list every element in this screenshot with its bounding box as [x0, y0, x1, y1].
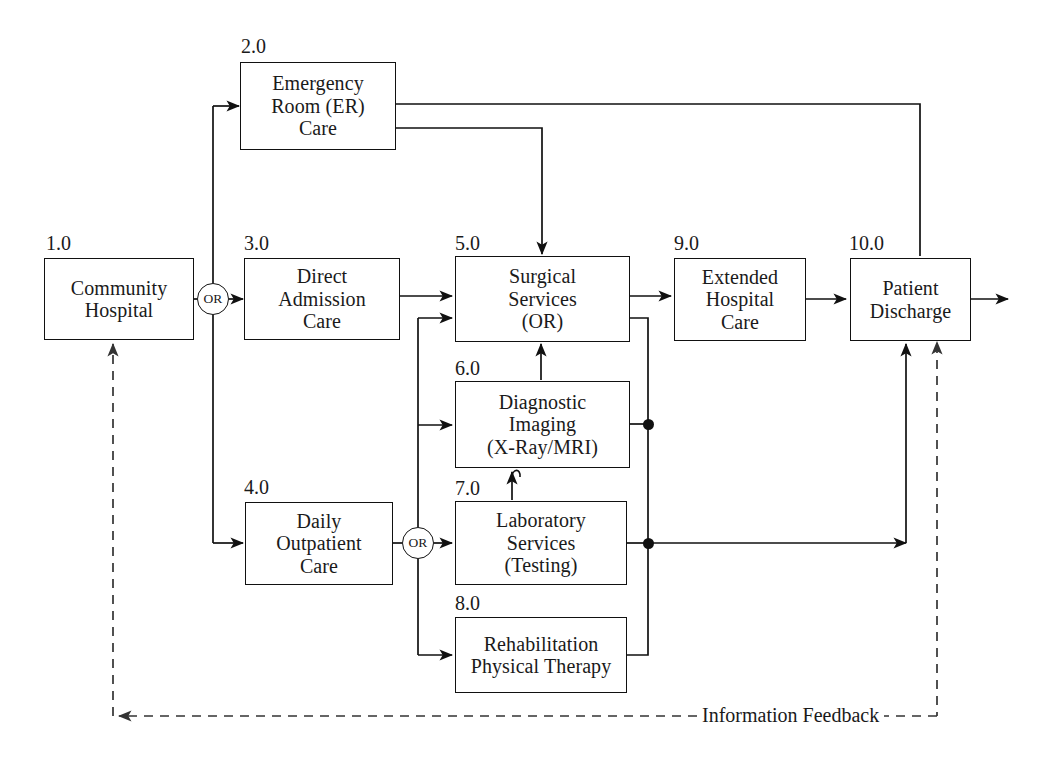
- process-id-10: 10.0: [849, 233, 884, 253]
- process-label-line: Community: [71, 277, 167, 299]
- process-label-line: Direct: [297, 265, 348, 287]
- junction-dot-imaging: [643, 419, 654, 430]
- process-id-3: 3.0: [244, 233, 269, 253]
- process-label-line: Room (ER): [271, 95, 365, 117]
- process-label-line: Rehabilitation: [484, 633, 599, 655]
- wire-ancillary-collector-bus: [627, 318, 648, 655]
- or-gate-label: OR: [408, 536, 427, 550]
- process-label-line: Care: [300, 555, 338, 577]
- process-label-line: Emergency: [272, 72, 364, 94]
- process-id-6: 6.0: [455, 358, 480, 378]
- process-label-line: Care: [299, 117, 337, 139]
- process-label-line: Outpatient: [276, 532, 361, 554]
- or-gate-label: OR: [203, 292, 222, 306]
- or-gate-intake[interactable]: OR: [197, 283, 229, 315]
- wire-hook-artifact: [512, 470, 520, 478]
- process-label-line: Daily: [297, 510, 342, 532]
- process-label-line: (Testing): [505, 554, 578, 576]
- flowchart-canvas: 1.0 2.0 3.0 4.0 5.0 6.0 7.0 8.0 9.0 10.0…: [0, 0, 1061, 762]
- process-label-line: Hospital: [85, 299, 154, 321]
- process-label-line: (OR): [522, 310, 564, 332]
- process-label-line: Diagnostic: [499, 391, 587, 413]
- process-id-8: 8.0: [455, 593, 480, 613]
- process-label-line: (X-Ray/MRI): [487, 436, 598, 458]
- process-label-line: Laboratory: [496, 509, 586, 531]
- process-label-line: Admission: [278, 288, 366, 310]
- or-gate-ancillary[interactable]: OR: [402, 527, 434, 559]
- process-box-daily-outpatient-care[interactable]: Daily Outpatient Care: [245, 502, 393, 585]
- process-box-emergency-room-care[interactable]: Emergency Room (ER) Care: [240, 62, 396, 150]
- process-id-9: 9.0: [674, 233, 699, 253]
- process-box-rehabilitation-physical-therapy[interactable]: Rehabilitation Physical Therapy: [455, 617, 627, 693]
- process-label-line: Physical Therapy: [471, 655, 612, 677]
- information-feedback-label: Information Feedback: [697, 705, 884, 725]
- process-box-direct-admission-care[interactable]: Direct Admission Care: [244, 258, 400, 340]
- process-id-1: 1.0: [46, 233, 71, 253]
- process-label-line: Services: [508, 288, 577, 310]
- process-box-extended-hospital-care[interactable]: Extended Hospital Care: [674, 258, 806, 341]
- process-label-line: Services: [507, 532, 576, 554]
- process-id-2: 2.0: [241, 36, 266, 56]
- process-id-4: 4.0: [244, 477, 269, 497]
- process-label-line: Imaging: [509, 413, 576, 435]
- process-label-line: Care: [303, 310, 341, 332]
- process-label-line: Care: [721, 311, 759, 333]
- junction-dot-laboratory: [643, 538, 654, 549]
- process-box-laboratory-services[interactable]: Laboratory Services (Testing): [455, 501, 627, 585]
- process-box-surgical-services[interactable]: Surgical Services (OR): [455, 256, 630, 342]
- process-box-diagnostic-imaging[interactable]: Diagnostic Imaging (X-Ray/MRI): [455, 381, 630, 468]
- process-id-5: 5.0: [455, 233, 480, 253]
- process-label-line: Patient: [882, 277, 938, 299]
- process-label-line: Extended: [702, 266, 778, 288]
- process-box-community-hospital[interactable]: Community Hospital: [44, 258, 194, 340]
- process-label-line: Hospital: [706, 288, 775, 310]
- process-id-7: 7.0: [455, 478, 480, 498]
- process-label-line: Surgical: [509, 265, 576, 287]
- process-box-patient-discharge[interactable]: Patient Discharge: [850, 258, 971, 341]
- process-label-line: Discharge: [870, 300, 952, 322]
